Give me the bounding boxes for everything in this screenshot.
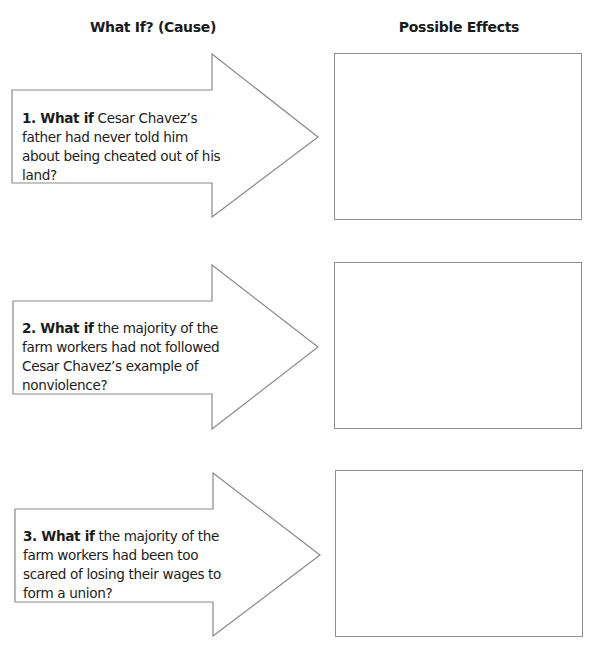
effect-box-3[interactable] (335, 470, 583, 637)
cause-text-3: 3. What if the majority of the farm work… (23, 527, 228, 603)
effect-box-1[interactable] (334, 53, 582, 220)
column-header-effects: Possible Effects (334, 19, 584, 35)
what-if-label-3: 3. What if (23, 528, 95, 544)
effect-box-2[interactable] (334, 262, 582, 429)
